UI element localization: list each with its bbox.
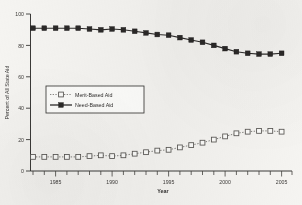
legend-merit-marker — [59, 92, 64, 97]
x-tick-label-2005: 2005 — [276, 179, 288, 185]
legend-label-merit-based-aid: Merit-Based Aid — [75, 92, 112, 98]
y-tick-label-0: 0 — [21, 168, 24, 174]
y-tick-label-100: 100 — [15, 11, 24, 17]
legend-label-need-based-aid: Need-Based Aid — [75, 102, 113, 108]
y-tick-label-20: 20 — [18, 137, 24, 143]
y-tick-label-80: 80 — [18, 43, 24, 49]
x-tick-label-1985: 1985 — [50, 179, 62, 185]
chart-figure: 0 20 40 60 80 100 Percent of All State A… — [0, 0, 302, 205]
legend-item-merit-based-aid: Merit-Based Aid — [50, 92, 112, 98]
y-tick-label-40: 40 — [18, 105, 24, 111]
x-tick-label-1990: 1990 — [106, 179, 118, 185]
chart-legend: Merit-Based Aid Need-Based Aid — [46, 86, 144, 113]
x-tick-label-1995: 1995 — [163, 179, 175, 185]
legend-need-marker — [59, 103, 64, 108]
x-tick-label-2000: 2000 — [219, 179, 231, 185]
y-tick-label-60: 60 — [18, 74, 24, 80]
x-axis-title: Year — [157, 188, 169, 194]
legend-item-need-based-aid: Need-Based Aid — [50, 102, 113, 108]
legend-box — [46, 86, 144, 113]
y-axis-title: Percent of All State Aid — [4, 66, 10, 120]
line-chart-svg: 0 20 40 60 80 100 Percent of All State A… — [0, 0, 302, 205]
